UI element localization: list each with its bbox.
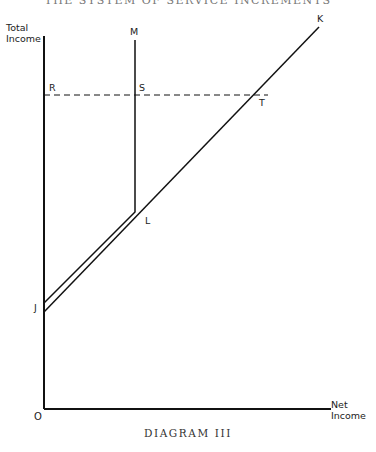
origin-label: O xyxy=(34,411,42,422)
x-axis-label-line1: Net xyxy=(331,399,366,410)
point-t-label: T xyxy=(259,97,265,108)
point-m-label: M xyxy=(130,26,138,37)
x-axis-label-line2: Income xyxy=(331,410,366,421)
y-axis-label-line1: Total xyxy=(6,22,41,33)
x-axis-label: Net Income xyxy=(331,399,366,421)
y-axis-label: Total Income xyxy=(6,22,41,44)
line-jk xyxy=(44,27,319,312)
y-axis-label-line2: Income xyxy=(6,33,41,44)
point-r-label: R xyxy=(49,82,56,93)
point-s-label: S xyxy=(139,82,145,93)
point-l-label: L xyxy=(145,215,150,226)
line-j-l-m xyxy=(44,40,135,303)
diagram-caption: DIAGRAM III xyxy=(0,427,376,439)
point-j-label: J xyxy=(34,302,37,313)
point-k-label: K xyxy=(317,13,323,24)
diagram-canvas: THE SYSTEM OF SERVICE INCREMENTS Total I… xyxy=(0,0,376,452)
diagram-lines xyxy=(0,0,376,452)
